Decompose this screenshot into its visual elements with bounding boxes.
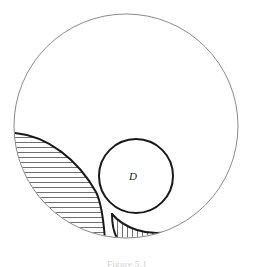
figure-container: D Figure 5.1 — [0, 0, 254, 267]
inner-circle-D-group: D — [99, 139, 173, 213]
geometric-figure: D — [0, 0, 254, 267]
inner-circle-D-label: D — [128, 170, 137, 182]
figure-caption: Figure 5.1 — [0, 259, 254, 267]
